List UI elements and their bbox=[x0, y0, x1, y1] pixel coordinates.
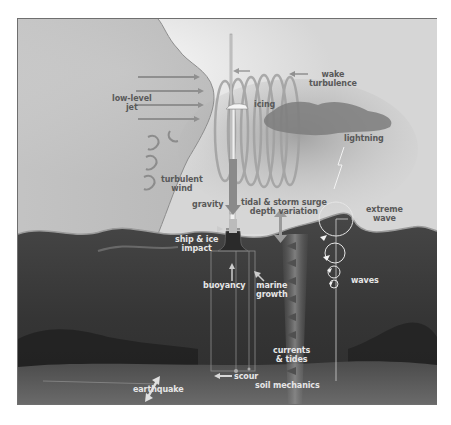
label-tidal-storm-surge-text: tidal & storm surge depth variation bbox=[241, 198, 327, 216]
label-icing-text: icing bbox=[254, 100, 275, 109]
tidal-arrow-shaft bbox=[279, 217, 282, 235]
label-wake-turbulence: wake turbulence bbox=[309, 71, 357, 88]
label-earthquake: earthquake bbox=[133, 386, 184, 395]
label-soil-mechanics-text: soil mechanics bbox=[255, 381, 320, 390]
label-gravity-text: gravity bbox=[192, 200, 223, 209]
label-ship-ice-impact-text: ship & ice impact bbox=[175, 235, 218, 253]
label-marine-growth: marine growth bbox=[256, 282, 287, 299]
label-waves-text: waves bbox=[351, 276, 379, 285]
label-lightning: lightning bbox=[344, 135, 384, 144]
label-marine-growth-text: marine growth bbox=[256, 281, 287, 299]
label-earthquake-text: earthquake bbox=[133, 385, 184, 394]
label-low-level-jet: low-level jet bbox=[112, 95, 152, 112]
label-scour-text: scour bbox=[234, 372, 258, 381]
label-waves: waves bbox=[351, 277, 379, 286]
label-soil-mechanics: soil mechanics bbox=[255, 382, 320, 391]
label-buoyancy: buoyancy bbox=[203, 282, 245, 291]
transition-tower bbox=[229, 219, 237, 233]
label-lightning-text: lightning bbox=[344, 134, 384, 143]
label-tidal-storm-surge: tidal & storm surge depth variation bbox=[241, 199, 327, 216]
label-wake-turbulence-text: wake turbulence bbox=[309, 70, 357, 88]
pile-tip-soil bbox=[248, 368, 251, 371]
label-extreme-wave-text: extreme wave bbox=[366, 205, 403, 223]
label-buoyancy-text: buoyancy bbox=[203, 281, 245, 290]
label-icing: icing bbox=[254, 101, 275, 110]
label-currents-tides: currents & tides bbox=[273, 347, 310, 364]
seabed bbox=[18, 361, 437, 404]
diagram-frame: low-level jet turbulent wind icing wake … bbox=[17, 18, 437, 405]
label-ship-ice-impact: ship & ice impact bbox=[175, 236, 218, 253]
label-scour: scour bbox=[234, 373, 258, 382]
label-turbulent-wind: turbulent wind bbox=[161, 176, 203, 193]
label-low-level-jet-text: low-level jet bbox=[112, 94, 152, 112]
label-currents-tides-text: currents & tides bbox=[273, 346, 310, 364]
label-extreme-wave: extreme wave bbox=[366, 206, 403, 223]
label-turbulent-wind-text: turbulent wind bbox=[161, 175, 203, 193]
gravity-arrow-shaft bbox=[229, 159, 237, 205]
label-gravity: gravity bbox=[192, 201, 223, 210]
